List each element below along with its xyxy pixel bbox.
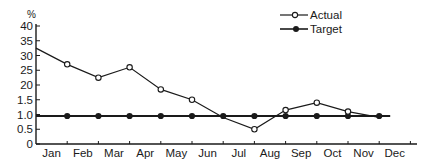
x-tick-label: Feb bbox=[73, 147, 93, 159]
x-tick-label: Mar bbox=[104, 147, 124, 159]
y-tick-label: 25 bbox=[20, 64, 33, 76]
legend-label-actual: Actual bbox=[310, 9, 342, 21]
series-target bbox=[36, 113, 390, 119]
actual-point-marker bbox=[189, 97, 194, 102]
actual-point-marker bbox=[314, 100, 319, 105]
x-tick-label: Aug bbox=[260, 147, 280, 159]
legend-item-actual: Actual bbox=[280, 9, 342, 21]
y-tick-label: 1.0 bbox=[17, 109, 33, 121]
x-tick-label: Dec bbox=[385, 147, 406, 159]
line-chart: 00.51.01.52025303540 JanFebMarAprMayJunJ… bbox=[0, 0, 434, 164]
x-tick-label: Jan bbox=[42, 147, 61, 159]
legend-label-target: Target bbox=[310, 23, 343, 35]
target-point-marker bbox=[189, 113, 195, 119]
y-axis-unit-label: % bbox=[27, 9, 36, 20]
target-point-marker bbox=[64, 113, 70, 119]
legend: Actual Target bbox=[280, 9, 343, 35]
x-tick-label: Oct bbox=[323, 147, 342, 159]
filled-circle-marker-icon bbox=[293, 26, 299, 32]
actual-point-marker bbox=[65, 62, 70, 67]
x-tick-label: Jun bbox=[198, 147, 217, 159]
x-tick-label: Apr bbox=[136, 147, 154, 159]
x-tick-label: Nov bbox=[353, 147, 374, 159]
x-axis: JanFebMarAprMayJunJulAugSepOctNovDec bbox=[36, 141, 417, 159]
actual-point-marker bbox=[252, 127, 257, 132]
y-tick-label: 0 bbox=[27, 138, 33, 150]
y-tick-label: 20 bbox=[20, 79, 33, 91]
actual-point-marker bbox=[345, 109, 350, 114]
target-point-marker bbox=[376, 113, 382, 119]
target-point-marker bbox=[158, 113, 164, 119]
y-tick-label: 35 bbox=[20, 35, 33, 47]
actual-point-marker bbox=[158, 87, 163, 92]
actual-point-marker bbox=[127, 65, 132, 70]
target-point-marker bbox=[314, 113, 320, 119]
x-tick-label: May bbox=[166, 147, 188, 159]
y-tick-label: 30 bbox=[20, 50, 33, 62]
target-point-marker bbox=[95, 113, 101, 119]
y-tick-label: 1.5 bbox=[17, 94, 33, 106]
x-tick-label: Sep bbox=[291, 147, 311, 159]
target-point-marker bbox=[283, 113, 289, 119]
open-circle-marker-icon bbox=[292, 12, 297, 17]
target-point-marker bbox=[251, 113, 257, 119]
y-axis: 00.51.01.52025303540 bbox=[17, 20, 40, 150]
y-tick-label: 40 bbox=[20, 20, 33, 32]
legend-item-target: Target bbox=[280, 23, 343, 35]
actual-point-marker bbox=[96, 75, 101, 80]
target-point-marker bbox=[127, 113, 133, 119]
series-actual bbox=[36, 48, 379, 132]
actual-point-marker bbox=[283, 107, 288, 112]
x-tick-label: Jul bbox=[231, 147, 246, 159]
y-tick-label: 0.5 bbox=[17, 123, 33, 135]
